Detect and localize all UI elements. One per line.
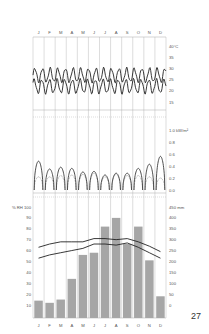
solar-diffuse-curve <box>45 177 54 190</box>
precipitation-bar <box>134 227 142 318</box>
precip-axis-tick: 400 <box>169 215 177 220</box>
precipitation-bar <box>79 255 87 318</box>
month-label-top: M <box>81 30 85 35</box>
solar-global-curve <box>112 173 121 190</box>
month-label-top: S <box>126 30 129 35</box>
solar-global-curve <box>156 156 165 190</box>
solar-diffuse-curve <box>67 175 76 190</box>
solar-global-curve <box>34 161 43 190</box>
month-label-bottom: N <box>148 323 151 328</box>
solar-axis-tick: 1.0 kW/m² <box>169 128 189 133</box>
precip-axis-tick: 250 <box>169 248 177 253</box>
rh-axis-tick: 80 <box>26 226 31 231</box>
precipitation-bar <box>156 296 164 318</box>
month-label-top: M <box>59 30 63 35</box>
month-label-top: A <box>70 30 73 35</box>
month-label-bottom: F <box>48 323 51 328</box>
solar-diffuse-curve <box>56 176 65 190</box>
solar-global-curve <box>134 168 143 190</box>
precip-axis-tick: 350 <box>169 226 177 231</box>
rh-axis-tick: 60 <box>26 248 31 253</box>
precipitation-bar <box>145 260 153 318</box>
month-label-bottom: A <box>115 323 118 328</box>
precip-axis-tick: 0 <box>169 303 172 308</box>
month-label-bottom: O <box>137 323 141 328</box>
solar-diffuse-curve <box>112 174 121 190</box>
rh-axis-tick: 40 <box>26 270 31 275</box>
solar-axis-tick: 0.4 <box>169 164 175 169</box>
month-label-bottom: M <box>81 323 85 328</box>
month-label-top: D <box>159 30 162 35</box>
rh-axis-tick: 70 <box>26 237 31 242</box>
month-label-bottom: J <box>93 323 95 328</box>
temp-axis-tick: 30 <box>169 66 174 71</box>
precip-axis-tick: 450 mm <box>169 205 185 210</box>
solar-global-curve <box>67 168 76 190</box>
month-label-top: A <box>115 30 118 35</box>
solar-global-curve <box>56 167 65 190</box>
month-label-bottom: D <box>159 323 162 328</box>
solar-global-curve <box>123 173 132 190</box>
month-label-top: F <box>48 30 51 35</box>
solar-axis-tick: 0.0 <box>169 188 175 193</box>
solar-global-curve <box>45 169 54 190</box>
month-label-bottom: J <box>104 323 106 328</box>
precipitation-bar <box>34 301 42 318</box>
solar-axis-tick: 0.2 <box>169 176 175 181</box>
solar-diffuse-curve <box>145 177 154 190</box>
precip-axis-tick: 50 <box>169 292 174 297</box>
month-label-top: J <box>93 30 95 35</box>
page-number: 27 <box>191 311 201 321</box>
solar-diffuse-curve <box>134 176 143 190</box>
solar-axis-tick: 0.8 <box>169 140 175 145</box>
month-label-bottom: J <box>37 323 39 328</box>
rh-axis-tick: 30 <box>26 281 31 286</box>
precipitation-bar <box>112 218 120 318</box>
climate-chart: JFMAMJJASONDJFMAMJJASOND40°C35302520151.… <box>0 0 209 334</box>
precipitation-bar <box>101 227 109 318</box>
precipitation-bar <box>68 279 76 318</box>
month-label-top: J <box>104 30 106 35</box>
precipitation-bar <box>56 300 64 318</box>
precip-axis-tick: 150 <box>169 270 177 275</box>
month-label-top: J <box>37 30 39 35</box>
precipitation-bar <box>123 244 131 318</box>
temp-axis-tick: 35 <box>169 55 174 60</box>
month-label-bottom: S <box>126 323 129 328</box>
rh-axis-tick: % RH 100 <box>12 205 32 210</box>
solar-global-curve <box>145 164 154 190</box>
month-label-bottom: M <box>59 323 63 328</box>
precip-axis-tick: 300 <box>169 237 177 242</box>
solar-axis-tick: 0.6 <box>169 152 175 157</box>
temp-axis-tick: 40°C <box>169 44 178 49</box>
solar-diffuse-curve <box>156 178 165 190</box>
temp-axis-tick: 20 <box>169 88 174 93</box>
solar-global-curve <box>79 172 88 190</box>
month-label-top: O <box>137 30 141 35</box>
temp-axis-tick: 25 <box>169 77 174 82</box>
solar-global-curve <box>101 175 110 190</box>
rh-axis-tick: 10 <box>26 303 31 308</box>
solar-global-curve <box>90 171 99 190</box>
precipitation-bar <box>90 253 98 318</box>
rh-axis-tick: 20 <box>26 292 31 297</box>
precip-axis-tick: 200 <box>169 259 177 264</box>
rh-axis-tick: 90 <box>26 215 31 220</box>
month-label-top: N <box>148 30 151 35</box>
temp-axis-tick: 15 <box>169 100 174 105</box>
rh-axis-tick: 50 <box>26 259 31 264</box>
precipitation-bar <box>45 303 53 318</box>
solar-diffuse-curve <box>34 177 43 190</box>
precip-axis-tick: 100 <box>169 281 177 286</box>
month-label-bottom: A <box>70 323 73 328</box>
